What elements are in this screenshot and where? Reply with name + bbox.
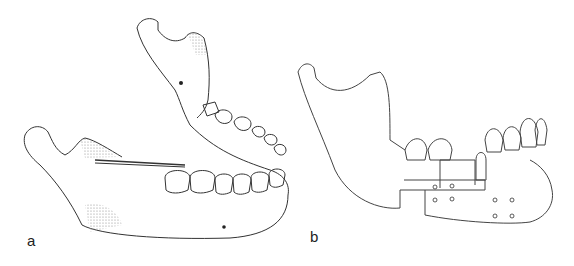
panel-label-b: b: [310, 228, 318, 245]
mandible-illustration-a: [0, 0, 300, 266]
mandible-illustration-b: [290, 0, 574, 266]
panel-b: [290, 0, 574, 266]
panel-a: [0, 0, 300, 266]
mental-foramen-mark: [222, 225, 226, 229]
stipple-angle: [85, 204, 122, 232]
panel-label-a: a: [27, 232, 35, 249]
fixation-screws: [433, 184, 514, 218]
foramen-mark: [179, 81, 183, 85]
stipple-coronoid: [80, 139, 118, 158]
